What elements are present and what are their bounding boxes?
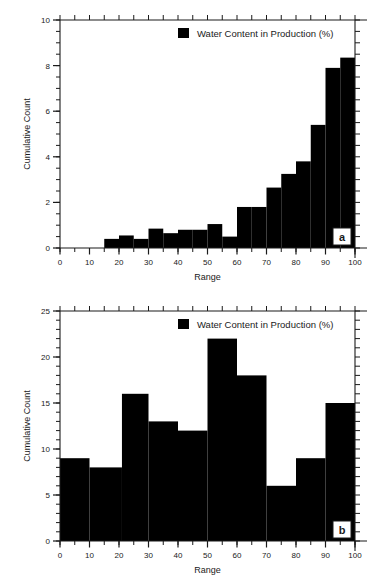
bar	[296, 161, 311, 248]
y-tick-label: 0	[46, 244, 51, 253]
x-tick-label: 40	[174, 551, 183, 560]
x-tick-label: 60	[233, 551, 242, 560]
x-tick-label: 80	[292, 258, 301, 267]
x-tick-label: 60	[233, 258, 242, 267]
x-axis-title: Range	[194, 565, 221, 575]
bar	[163, 233, 178, 248]
chart-a-svg: 01020304050607080901000246810RangeCumula…	[0, 0, 390, 292]
panel-label-text: a	[339, 231, 346, 243]
y-axis-title: Cumulative Count	[22, 390, 32, 462]
panel-label: b	[333, 521, 351, 538]
legend-swatch	[178, 28, 189, 38]
bar	[208, 339, 238, 541]
bar	[326, 403, 356, 541]
x-tick-label: 70	[262, 258, 271, 267]
legend-label: Water Content in Production (%)	[197, 319, 333, 330]
bar	[60, 458, 90, 541]
bar	[178, 230, 193, 248]
bar	[311, 125, 326, 248]
bar	[222, 237, 237, 248]
y-tick-label: 20	[41, 353, 50, 362]
y-tick-label: 10	[41, 445, 50, 454]
bar	[134, 239, 149, 248]
bar	[90, 467, 122, 541]
x-tick-label: 10	[85, 258, 94, 267]
chart-b-svg: 01020304050607080901000510152025RangeCum…	[0, 292, 390, 584]
y-axis-title: Cumulative Count	[22, 98, 32, 170]
bar	[119, 235, 134, 248]
bar	[252, 207, 267, 248]
x-tick-label: 20	[115, 258, 124, 267]
y-tick-label: 2	[46, 198, 51, 207]
bar	[326, 68, 341, 248]
x-tick-label: 30	[144, 551, 153, 560]
y-tick-label: 10	[41, 16, 50, 25]
bars-group	[104, 58, 355, 248]
bar	[178, 431, 208, 541]
x-tick-label: 80	[292, 551, 301, 560]
bar	[237, 375, 267, 541]
x-tick-label: 90	[321, 258, 330, 267]
x-tick-label: 50	[203, 258, 212, 267]
x-tick-label: 10	[85, 551, 94, 560]
x-tick-label: 70	[262, 551, 271, 560]
x-tick-label: 100	[348, 551, 362, 560]
y-tick-label: 0	[46, 537, 51, 546]
y-tick-label: 6	[46, 107, 51, 116]
y-tick-label: 25	[41, 307, 50, 316]
bar	[208, 224, 223, 248]
legend-swatch	[178, 319, 189, 329]
bar	[122, 394, 149, 541]
x-tick-label: 90	[321, 551, 330, 560]
legend: Water Content in Production (%)	[178, 28, 333, 39]
x-tick-label: 30	[144, 258, 153, 267]
bar	[281, 174, 296, 248]
bar	[296, 458, 326, 541]
bar	[267, 188, 282, 248]
legend: Water Content in Production (%)	[178, 319, 333, 330]
y-tick-label: 5	[46, 491, 51, 500]
panel-label: a	[333, 228, 351, 245]
bars-group	[60, 339, 355, 541]
bar	[237, 207, 252, 248]
y-tick-label: 8	[46, 62, 51, 71]
bar	[267, 486, 297, 541]
bar	[193, 230, 208, 248]
chart-panel-a: 01020304050607080901000246810RangeCumula…	[0, 0, 390, 292]
x-tick-label: 20	[115, 551, 124, 560]
panel-label-text: b	[339, 524, 346, 536]
x-tick-label: 100	[348, 258, 362, 267]
y-tick-label: 15	[41, 399, 50, 408]
bar	[149, 421, 179, 541]
bar	[340, 58, 355, 248]
bar	[104, 239, 119, 248]
x-tick-label: 40	[174, 258, 183, 267]
x-tick-label: 50	[203, 551, 212, 560]
bar	[149, 229, 164, 248]
y-tick-label: 4	[46, 153, 51, 162]
x-tick-label: 0	[58, 258, 63, 267]
x-axis-title: Range	[194, 272, 221, 282]
x-tick-label: 0	[58, 551, 63, 560]
chart-panel-b: 01020304050607080901000510152025RangeCum…	[0, 292, 390, 584]
legend-label: Water Content in Production (%)	[197, 28, 333, 39]
